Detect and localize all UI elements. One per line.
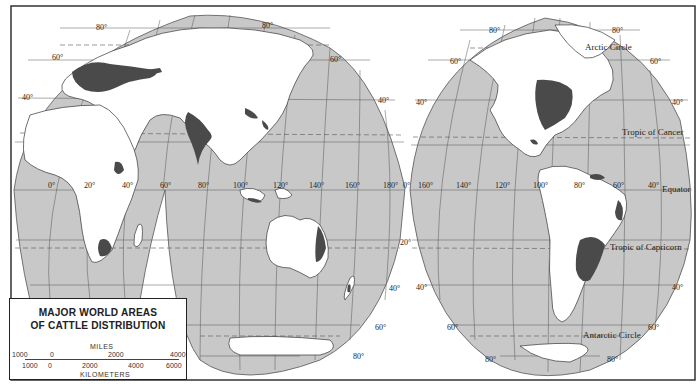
svg-text:60°: 60° [613,181,624,190]
scale-bar [25,359,179,360]
map-legend: MAJOR WORLD AREAS OF CATTLE DISTRIBUTION… [9,298,187,380]
km-tick-2: 2000 [82,362,98,369]
svg-text:40°: 40° [378,96,389,105]
tropic-cancer-label: Tropic of Cancer [622,127,683,137]
svg-text:60°: 60° [52,53,63,62]
svg-text:60°: 60° [375,323,386,332]
svg-text:40°: 40° [389,284,400,293]
svg-text:60°: 60° [330,55,341,64]
svg-text:80°: 80° [489,26,500,35]
arctic-circle-label: Arctic Circle [585,42,632,52]
svg-text:40°: 40° [672,98,683,107]
svg-text:60°: 60° [648,323,659,332]
svg-text:80°: 80° [96,23,107,32]
miles-tick-3: 4000 [170,351,186,358]
miles-tick-0: 1000 [12,351,28,358]
miles-tick-2: 2000 [108,351,124,358]
svg-text:160°: 160° [418,181,433,190]
km-tick-0: 1000 [22,362,38,369]
svg-text:80°: 80° [612,26,623,35]
antarctica-left [229,336,334,355]
svg-text:60°: 60° [650,57,661,66]
svg-text:80°: 80° [607,355,618,364]
km-tick-3: 4000 [128,362,144,369]
svg-text:60°: 60° [450,57,461,66]
svg-text:120°: 120° [495,181,510,190]
tropic-capricorn-label: Tropic of Capricorn [610,242,682,252]
miles-tick-1: 0 [50,351,54,358]
svg-text:40°: 40° [648,181,659,190]
svg-text:100°: 100° [233,181,248,190]
svg-text:20°: 20° [84,181,95,190]
svg-text:80°: 80° [353,352,364,361]
svg-text:60°: 60° [447,323,458,332]
svg-text:0°: 0° [403,181,410,190]
svg-text:140°: 140° [456,181,471,190]
svg-text:20°: 20° [400,238,411,247]
svg-text:0°: 0° [48,181,55,190]
km-tick-1: 0 [48,362,52,369]
miles-label: MILES [90,343,114,350]
equator-label: Equator [662,184,691,194]
legend-title-line1: MAJOR WORLD AREAS [17,306,179,319]
svg-text:40°: 40° [672,283,683,292]
kilometers-label: KILOMETERS [80,371,130,378]
svg-text:100°: 100° [533,181,548,190]
antarctic-circle-label: Antarctic Circle [583,330,641,340]
legend-title-line2: OF CATTLE DISTRIBUTION [17,319,179,332]
svg-text:180°: 180° [383,181,398,190]
svg-text:80°: 80° [485,355,496,364]
svg-text:40°: 40° [416,98,427,107]
svg-text:80°: 80° [574,181,585,190]
svg-text:80°: 80° [198,181,209,190]
km-tick-4: 6000 [166,362,182,369]
svg-text:160°: 160° [345,181,360,190]
svg-text:40°: 40° [122,181,133,190]
svg-text:80°: 80° [262,21,273,30]
svg-text:40°: 40° [22,93,33,102]
svg-text:60°: 60° [160,181,171,190]
svg-text:140°: 140° [309,181,324,190]
svg-text:40°: 40° [416,283,427,292]
svg-text:120°: 120° [273,181,288,190]
